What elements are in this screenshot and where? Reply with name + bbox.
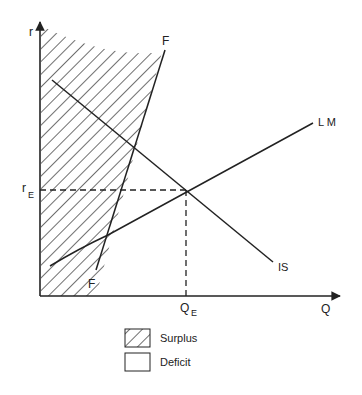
q-e-subscript: E — [191, 308, 197, 318]
surplus-region — [41, 26, 162, 296]
deficit-label: Deficit — [160, 356, 191, 368]
legend: Surplus Deficit — [125, 329, 198, 371]
x-axis-label: Q — [321, 302, 330, 316]
surplus-swatch — [125, 329, 150, 347]
r-e-subscript: E — [28, 190, 34, 200]
is-label: IS — [278, 261, 288, 273]
y-axis-label: r — [29, 25, 33, 39]
ff-label-top: F — [162, 34, 169, 48]
deficit-swatch — [125, 353, 150, 371]
q-e-label: Q — [180, 301, 189, 315]
r-e-label: r — [22, 181, 26, 195]
surplus-label: Surplus — [160, 332, 198, 344]
lm-label: L M — [318, 116, 336, 128]
legend-item-surplus: Surplus — [125, 329, 198, 347]
legend-item-deficit: Deficit — [125, 353, 191, 371]
is-lm-ff-diagram: r Q F F IS L M r E Q E Surplus Deficit — [0, 0, 362, 395]
ff-label-bottom: F — [88, 277, 95, 291]
